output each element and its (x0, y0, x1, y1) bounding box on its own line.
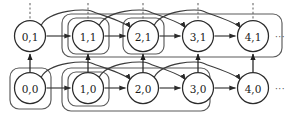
node-label: 4,0 (245, 83, 262, 95)
node-2-0[interactable]: 2,0 (128, 73, 159, 104)
node-label: 3,0 (190, 83, 207, 95)
node-label: 3,1 (190, 31, 207, 43)
ellipsis-top-row: ··· (275, 32, 285, 42)
node-4-0[interactable]: 4,0 (238, 73, 269, 104)
node-1-1[interactable]: 1,1 (73, 21, 104, 52)
node-label: 4,1 (245, 31, 262, 43)
ellipsis-bottom-row: ··· (275, 84, 285, 94)
node-0-0[interactable]: 0,0 (15, 73, 46, 104)
node-3-0[interactable]: 3,0 (183, 73, 214, 104)
node-label: 0,0 (22, 83, 39, 95)
node-label: 0,1 (22, 31, 39, 43)
node-label: 1,1 (80, 31, 97, 43)
lattice-diagram: 0,11,12,13,14,10,01,02,03,04,0 ······ (0, 0, 290, 118)
node-label: 2,1 (135, 31, 152, 43)
node-4-1[interactable]: 4,1 (238, 21, 269, 52)
node-label: 2,0 (135, 83, 152, 95)
node-2-1[interactable]: 2,1 (128, 21, 159, 52)
node-0-1[interactable]: 0,1 (15, 21, 46, 52)
node-3-1[interactable]: 3,1 (183, 21, 214, 52)
node-1-0[interactable]: 1,0 (73, 73, 104, 104)
node-label: 1,0 (80, 83, 97, 95)
figure-canvas: 0,11,12,13,14,10,01,02,03,04,0 ······ (0, 0, 290, 118)
ellipsis-layer: ······ (275, 32, 285, 94)
